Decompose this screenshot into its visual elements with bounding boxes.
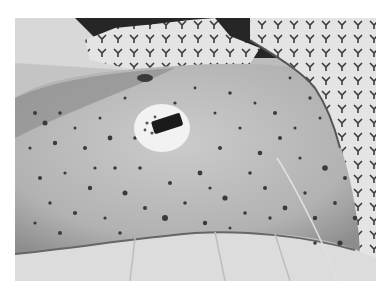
clinical-photograph <box>15 18 376 281</box>
dressing-with-device <box>134 104 190 152</box>
